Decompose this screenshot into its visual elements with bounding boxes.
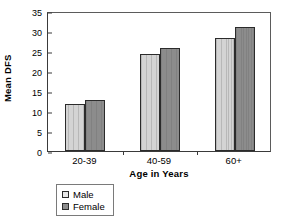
y-axis-tick-label: 25: [32, 49, 48, 58]
y-axis-tick-mark: [48, 13, 52, 14]
y-axis-tick-mark: [48, 53, 52, 54]
y-axis-tick-label: 15: [32, 89, 48, 98]
bar-chart-figure: Mean DFS 05101520253035 20-3940-5960+ Ag…: [0, 0, 283, 219]
legend-label-male: Male: [73, 189, 94, 200]
x-axis-tick-label: 40-59: [122, 155, 197, 166]
chart-legend: Male Female: [56, 184, 114, 216]
bar-female-60: [235, 27, 255, 151]
y-axis-tick-label: 20: [32, 69, 48, 78]
x-axis-tick-label: 60+: [196, 155, 271, 166]
legend-swatch-male-icon: [62, 191, 69, 198]
legend-item-male: Male: [62, 188, 105, 200]
y-axis-title: Mean DFS: [1, 38, 15, 118]
y-axis-tick-mark: [48, 93, 52, 94]
y-axis-tick-label: 35: [32, 9, 48, 18]
bar-male-4059: [140, 54, 160, 151]
x-axis-title: Age in Years: [47, 168, 271, 179]
bar-male-2039: [65, 104, 85, 151]
y-axis-tick-label: 30: [32, 29, 48, 38]
legend-item-female: Female: [62, 200, 105, 212]
plot-area: 05101520253035: [47, 12, 271, 152]
bar-female-2039: [85, 100, 105, 151]
bar-male-60: [215, 38, 235, 151]
legend-label-female: Female: [73, 201, 105, 212]
y-axis-tick-label: 5: [37, 129, 48, 138]
x-axis-tick-label: 20-39: [47, 155, 122, 166]
y-axis-tick-mark: [48, 33, 52, 34]
legend-swatch-female-icon: [62, 203, 69, 210]
y-axis-tick-mark: [48, 113, 52, 114]
y-axis-tick-mark: [48, 153, 52, 154]
y-axis-tick-mark: [48, 73, 52, 74]
y-axis-tick-mark: [48, 133, 52, 134]
bar-female-4059: [160, 48, 180, 151]
y-axis-tick-label: 10: [32, 109, 48, 118]
